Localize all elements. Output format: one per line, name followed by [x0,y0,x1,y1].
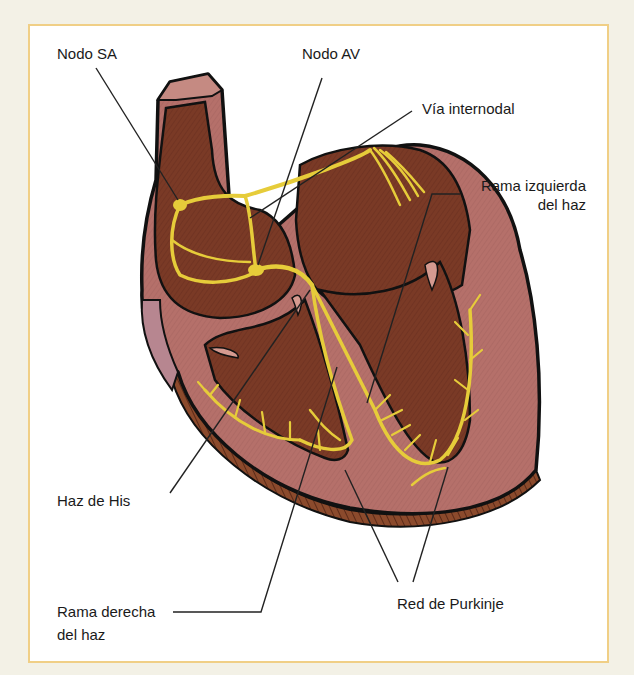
label-rama-izquierda-line1: Rama izquierda [466,176,586,195]
label-nodo-av: Nodo AV [302,44,360,63]
label-red-purkinje: Red de Purkinje [397,594,504,613]
label-haz-de-his: Haz de His [57,491,130,510]
label-via-internodal: Vía internodal [422,99,515,118]
label-nodo-sa: Nodo SA [57,44,117,63]
label-rama-derecha-line2: del haz [57,625,155,644]
label-rama-derecha: Rama derecha del haz [57,602,155,644]
label-rama-derecha-line1: Rama derecha [57,602,155,621]
heart-diagram [0,0,634,675]
label-rama-izquierda-line2: del haz [466,195,586,214]
label-rama-izquierda: Rama izquierda del haz [466,176,586,214]
